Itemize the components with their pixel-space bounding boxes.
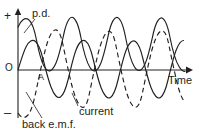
current-curve: [18, 40, 184, 98]
positive-axis-label: +: [4, 10, 11, 22]
x-axis-arrow-icon: [186, 67, 193, 74]
x-axis-label: Time: [168, 75, 192, 86]
point-a-label: A: [38, 73, 44, 82]
current-curve-label: current: [79, 106, 113, 117]
back-emf-curve-label: back e.m.f.: [22, 119, 76, 130]
negative-axis-label: –: [4, 106, 11, 119]
pd-curve-label: p.d.: [32, 8, 50, 19]
pd-curve: [18, 17, 185, 71]
y-axis-arrow-icon: [15, 8, 21, 15]
origin-label: O: [5, 63, 13, 73]
waveform-figure: + – O Time A p.d. current back e.m.f.: [0, 0, 203, 134]
back-emf-leader-line: [26, 92, 42, 118]
